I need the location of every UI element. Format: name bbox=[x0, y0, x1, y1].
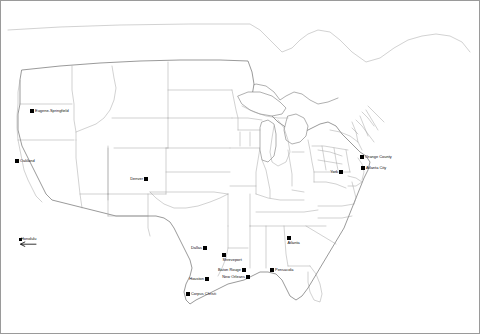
city-dot-icon bbox=[242, 268, 245, 271]
city-label: Shreveport bbox=[222, 258, 241, 262]
city-dot-icon bbox=[360, 155, 363, 158]
city-markers-layer: Eugene-SpringfieldOaklandDenverDallasShr… bbox=[0, 0, 480, 334]
city-label: Eugene-Springfield bbox=[35, 109, 69, 113]
city-dot-icon bbox=[361, 166, 364, 169]
city-label: York bbox=[330, 170, 338, 174]
city-label: New Orleans bbox=[222, 275, 245, 279]
map-container: Eugene-SpringfieldOaklandDenverDallasShr… bbox=[0, 0, 480, 334]
city-label: Orange County bbox=[365, 155, 392, 159]
city-label: Pensacola bbox=[275, 268, 293, 272]
city-dot-icon bbox=[203, 246, 206, 249]
city-dot-icon bbox=[339, 170, 342, 173]
city-dot-icon bbox=[205, 277, 208, 280]
city-label: Baton Rouge bbox=[218, 268, 241, 272]
city-dot-icon bbox=[246, 275, 249, 278]
city-dot-icon bbox=[186, 292, 189, 295]
city-label: Denver bbox=[130, 177, 143, 181]
offmap-city-label: Honolulu bbox=[21, 236, 36, 241]
city-label: Houston bbox=[189, 277, 204, 281]
offmap-arrow-icon bbox=[13, 241, 39, 247]
city-label: Corpus Christi bbox=[191, 292, 216, 296]
city-dot-icon bbox=[270, 268, 273, 271]
city-label: Dallas bbox=[191, 246, 202, 250]
city-dot-icon bbox=[30, 109, 33, 112]
city-dot-icon bbox=[15, 159, 18, 162]
city-label: Atlanta City bbox=[366, 166, 386, 170]
city-label: Atlanta bbox=[287, 241, 299, 245]
city-label: Oakland bbox=[20, 159, 35, 163]
city-dot-icon bbox=[144, 177, 147, 180]
